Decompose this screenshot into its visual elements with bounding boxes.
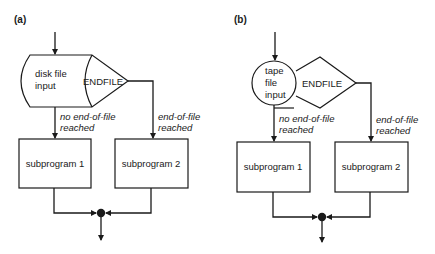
left-branch-b-line1: no end-of-file	[279, 113, 334, 124]
join-arrow-b-left	[273, 192, 317, 217]
input-text-a-line1: disk file	[35, 68, 67, 79]
flowchart-canvas: (a) disk file input ENDFILE no end-of-fi…	[0, 0, 435, 254]
connector-dot-a	[97, 209, 105, 217]
branch-arrow-a-right	[128, 81, 153, 138]
input-text-b-line3: input	[265, 89, 286, 100]
panel-label-b: (b)	[234, 14, 247, 25]
input-text-a-line2: input	[35, 80, 56, 91]
left-branch-a-line2: reached	[60, 122, 95, 133]
join-arrow-a-left	[54, 188, 96, 213]
subprogram-2-label-a: subprogram 2	[122, 158, 181, 169]
left-branch-a-line1: no end-of-file	[60, 111, 115, 122]
right-branch-b-line1: end-of-file	[376, 114, 418, 125]
subprogram-1-label-b: subprogram 1	[244, 161, 303, 172]
left-branch-b-line2: reached	[279, 124, 314, 135]
connector-dot-b	[318, 213, 326, 221]
join-arrow-a-right	[106, 188, 151, 213]
input-text-b-line2: file	[265, 77, 277, 88]
right-branch-b-line2: reached	[376, 125, 411, 136]
panel-label-a: (a)	[14, 14, 26, 25]
panel-a: (a) disk file input ENDFILE no end-of-fi…	[14, 14, 200, 240]
join-arrow-b-right	[327, 192, 370, 217]
right-branch-a-line2: reached	[158, 122, 193, 133]
right-branch-a-line1: end-of-file	[158, 111, 200, 122]
subprogram-1-label-a: subprogram 1	[26, 158, 85, 169]
subprogram-2-label-b: subprogram 2	[342, 161, 401, 172]
branch-arrow-b-right	[356, 83, 371, 141]
decision-text-b: ENDFILE	[302, 78, 342, 89]
panel-b: (b) tape file input ENDFILE no end-of-fi…	[234, 14, 418, 242]
decision-text-a: ENDFILE	[83, 76, 123, 87]
input-text-b-line1: tape	[265, 65, 284, 76]
